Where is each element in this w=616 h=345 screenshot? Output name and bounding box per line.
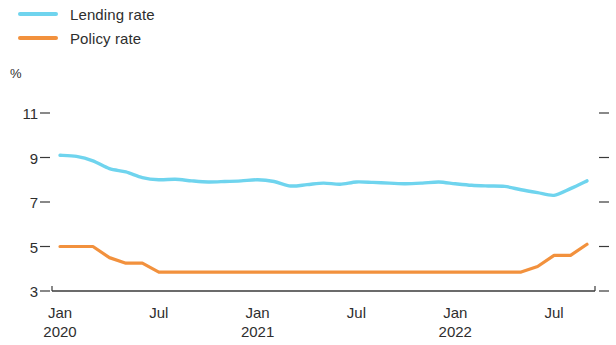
x-axis-tick-2: Jan2021 (241, 303, 274, 341)
series-line-policy-rate (60, 244, 587, 272)
x-axis-tick-4: Jan2022 (439, 303, 472, 341)
x-axis-tick-5: Jul (544, 303, 563, 322)
x-tick-month: Jan (443, 304, 467, 321)
series-line-lending-rate (60, 155, 587, 195)
x-tick-month: Jul (149, 304, 168, 321)
x-axis-tick-labels: Jan2020JulJan2021JulJan2022Jul (0, 299, 616, 345)
x-axis-tick-1: Jul (149, 303, 168, 322)
x-axis-tick-3: Jul (347, 303, 366, 322)
x-tick-year: 2021 (241, 322, 274, 341)
x-tick-month: Jul (544, 304, 563, 321)
x-tick-month: Jan (246, 304, 270, 321)
x-tick-year: 2020 (43, 322, 76, 341)
x-axis-tick-0: Jan2020 (43, 303, 76, 341)
x-tick-year: 2022 (439, 322, 472, 341)
x-tick-month: Jul (347, 304, 366, 321)
plot-area (0, 0, 616, 345)
x-tick-month: Jan (48, 304, 72, 321)
interest-rate-line-chart: Lending rate Policy rate % 119753 Jan202… (0, 0, 616, 345)
